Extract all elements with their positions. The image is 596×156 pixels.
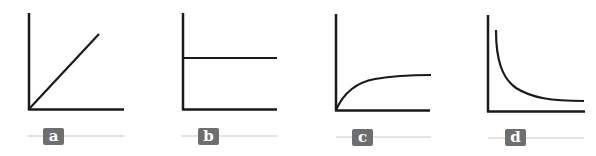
panel-label-c: c [352,129,373,146]
curve-inverse [496,30,584,101]
panel-a: a [0,0,149,156]
panel-d: d [446,0,595,156]
panel-label-d: d [505,129,526,146]
graph-b [150,0,299,156]
curve-saturating [336,75,431,110]
panel-c: c [300,0,449,156]
graph-a [0,0,149,156]
curve-linear [29,34,99,109]
panel-b: b [150,0,299,156]
graph-c [300,0,449,156]
panel-label-b: b [198,128,219,145]
panel-label-a: a [43,128,64,145]
